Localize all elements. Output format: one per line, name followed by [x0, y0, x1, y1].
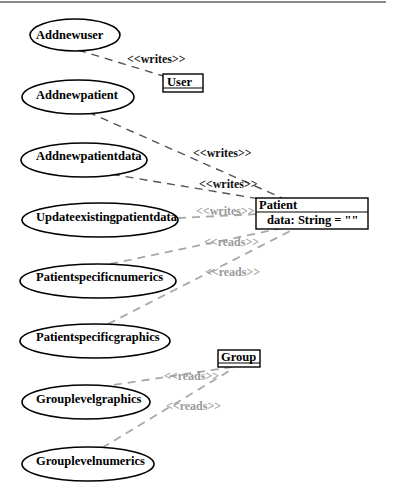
use-case-updateexistingpatientdata[interactable]: Updateexistingpatientdata	[22, 203, 178, 237]
class-name: Patient	[259, 198, 298, 212]
class-group[interactable]: Group	[218, 350, 260, 367]
class-patient[interactable]: Patient data: String = ""	[256, 198, 368, 229]
use-case-grouplevelgraphics[interactable]: Grouplevelgraphics	[22, 385, 150, 419]
use-case-patientspecificgraphics[interactable]: Patientspecificgraphics	[20, 324, 170, 358]
use-case-addnewpatientdata[interactable]: Addnewpatientdata	[21, 143, 147, 177]
edge-label-writes: <<writes>>	[199, 177, 258, 191]
use-case-label: Grouplevelgraphics	[36, 392, 141, 406]
use-case-patientspecificnumerics[interactable]: Patientspecificnumerics	[20, 264, 176, 298]
use-case-addnewpatient[interactable]: Addnewpatient	[22, 80, 134, 114]
edge-grouplevelgraphics-group: <<reads>>	[100, 367, 232, 387]
diagram-canvas: <<writes>> <<writes>> <<writes>> <<write…	[0, 0, 393, 503]
edge-label-reads: <<reads>>	[204, 235, 259, 249]
use-case-label: Patientspecificnumerics	[36, 270, 163, 284]
edge-label-reads: <<reads>>	[205, 265, 260, 279]
edge-updateexisting-patient: <<writes>>	[178, 204, 260, 218]
class-name: User	[167, 75, 192, 89]
use-case-addnewuser[interactable]: Addnewuser	[30, 19, 120, 51]
use-case-label: Addnewpatient	[36, 88, 119, 102]
class-attribute: data: String = ""	[267, 213, 359, 227]
edge-label-reads: <<reads>>	[166, 399, 221, 413]
use-case-label: Grouplevelnumerics	[36, 454, 145, 468]
diagram-svg: <<writes>> <<writes>> <<writes>> <<write…	[0, 0, 393, 503]
use-case-label: Addnewuser	[36, 28, 104, 42]
edge-label-writes: <<writes>>	[196, 204, 255, 218]
use-case-grouplevelnumerics[interactable]: Grouplevelnumerics	[22, 447, 154, 481]
edge-label-writes: <<writes>>	[127, 52, 186, 66]
class-user[interactable]: User	[163, 74, 203, 92]
edge-label-writes: <<writes>>	[193, 146, 252, 160]
class-name: Group	[221, 350, 256, 364]
use-case-label: Patientspecificgraphics	[36, 330, 160, 344]
use-case-label: Addnewpatientdata	[36, 149, 142, 163]
use-case-label: Updateexistingpatientdata	[36, 210, 178, 224]
